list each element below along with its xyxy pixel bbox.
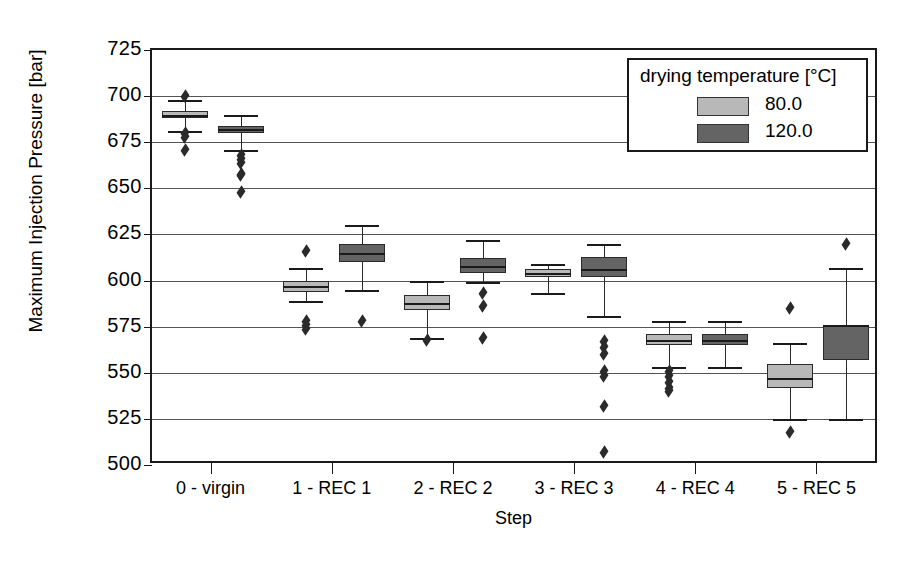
median-line <box>646 340 692 342</box>
whisker-cap-upper <box>829 268 863 270</box>
whisker-cap-lower <box>289 301 323 303</box>
median-line <box>339 253 385 255</box>
median-line <box>525 273 571 275</box>
y-axis-tick <box>144 419 152 420</box>
outlier-marker <box>478 331 487 345</box>
whisker-cap-lower <box>708 367 742 369</box>
whisker-cap-upper <box>652 321 686 323</box>
median-line <box>162 115 208 117</box>
whisker-cap-upper <box>773 343 807 345</box>
box-iqr <box>823 325 869 360</box>
whisker-cap-lower <box>829 419 863 421</box>
median-line <box>767 378 813 380</box>
whisker-cap-lower <box>345 290 379 292</box>
median-line <box>702 340 748 342</box>
legend-title: drying temperature [°C] <box>640 65 837 87</box>
whisker-cap-upper <box>587 244 621 246</box>
y-axis-tick <box>144 234 152 235</box>
outlier-marker <box>786 425 795 439</box>
y-axis-tick <box>144 373 152 374</box>
gridline <box>152 281 875 282</box>
y-axis-tick <box>144 188 152 189</box>
x-axis-tick-labels: 0 - virgin1 - REC 12 - REC 23 - REC 34 -… <box>150 478 877 504</box>
outlier-marker <box>236 185 245 199</box>
y-axis-tick <box>144 281 152 282</box>
box-iqr <box>581 257 627 277</box>
median-line <box>823 325 869 327</box>
box-iqr <box>767 364 813 388</box>
outlier-marker <box>786 301 795 315</box>
median-line <box>218 129 264 131</box>
x-axis-tick <box>574 463 575 474</box>
whisker-line <box>548 264 549 294</box>
x-axis-tick-label: 4 - REC 4 <box>656 478 735 499</box>
y-axis-tick-label: 500 <box>107 452 142 475</box>
whisker-cap-upper <box>224 115 258 117</box>
median-line <box>283 286 329 288</box>
y-axis-tick-label: 625 <box>107 221 142 244</box>
y-axis-tick-labels: 725700675650625600575550525500 <box>38 48 142 463</box>
median-line <box>460 266 506 268</box>
x-axis-tick-label: 3 - REC 3 <box>535 478 614 499</box>
y-axis-tick-label: 550 <box>107 359 142 382</box>
outlier-marker <box>600 399 609 413</box>
x-axis-tick <box>332 463 333 474</box>
x-axis-tick <box>453 463 454 474</box>
y-axis-tick-label: 725 <box>107 37 142 60</box>
whisker-cap-lower <box>466 282 500 284</box>
x-axis-tick <box>695 463 696 474</box>
outlier-marker <box>478 300 487 314</box>
x-axis-tick-label: 2 - REC 2 <box>413 478 492 499</box>
legend-swatch-120 <box>697 124 749 143</box>
whisker-cap-upper <box>708 321 742 323</box>
y-axis-tick-label: 525 <box>107 405 142 428</box>
y-axis-tick-label: 575 <box>107 313 142 336</box>
y-axis-tick-label: 650 <box>107 175 142 198</box>
whisker-cap-upper <box>466 240 500 242</box>
gridline <box>152 419 875 420</box>
whisker-cap-upper <box>410 281 444 283</box>
gridline <box>152 234 875 235</box>
outlier-marker <box>600 445 609 459</box>
legend: drying temperature [°C] 80.0 120.0 <box>627 58 868 152</box>
outlier-marker <box>236 169 245 183</box>
x-axis-tick <box>816 463 817 474</box>
outlier-marker <box>842 237 851 251</box>
whisker-cap-upper <box>289 268 323 270</box>
x-axis-tick-label: 0 - virgin <box>176 478 245 499</box>
outlier-marker <box>180 143 189 157</box>
x-axis-tick-label: 5 - REC 5 <box>777 478 856 499</box>
median-line <box>404 303 450 305</box>
x-axis-ticks <box>150 463 877 475</box>
y-axis-tick-label: 675 <box>107 129 142 152</box>
outlier-marker <box>301 244 310 258</box>
y-axis-tick <box>144 96 152 97</box>
chart-page: Maximum Injection Pressure [bar] 7257006… <box>0 0 924 563</box>
gridline <box>152 327 875 328</box>
legend-label-80: 80.0 <box>765 93 802 115</box>
outlier-marker <box>422 333 431 347</box>
median-line <box>581 269 627 271</box>
x-axis-title: Step <box>150 508 877 529</box>
y-axis-tick-label: 700 <box>107 83 142 106</box>
whisker-cap-upper <box>531 264 565 266</box>
y-axis-tick-label: 600 <box>107 267 142 290</box>
whisker-cap-lower <box>587 316 621 318</box>
x-axis-tick <box>211 463 212 474</box>
legend-swatch-80 <box>697 97 749 116</box>
gridline <box>152 188 875 189</box>
whisker-cap-upper <box>345 225 379 227</box>
y-axis-tick <box>144 327 152 328</box>
y-axis-tick <box>144 142 152 143</box>
y-axis-tick <box>144 50 152 51</box>
whisker-cap-lower <box>773 419 807 421</box>
whisker-cap-lower <box>531 293 565 295</box>
x-axis-tick-label: 1 - REC 1 <box>292 478 371 499</box>
legend-label-120: 120.0 <box>765 120 813 142</box>
whisker-line <box>604 244 605 316</box>
